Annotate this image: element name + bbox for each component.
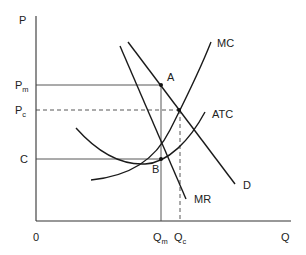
atc-label: ATC	[212, 108, 233, 120]
marginal-revenue-curve	[120, 46, 186, 199]
mc-label: MC	[217, 37, 234, 49]
average-total-cost-curve	[76, 112, 205, 164]
qc-label: Qc	[174, 231, 187, 246]
point-a-marker	[159, 83, 163, 87]
pc-label: Pc	[15, 104, 26, 119]
point-b-marker	[159, 157, 163, 161]
x-axis-label: Q	[281, 231, 290, 243]
qm-label: Qm	[153, 231, 168, 246]
d-label: D	[243, 179, 251, 191]
mr-label: MR	[194, 193, 211, 205]
pm-label: Pm	[15, 79, 29, 94]
curves	[76, 42, 235, 199]
price-labels: Pm Pc C	[15, 79, 29, 165]
guide-lines	[36, 85, 180, 221]
point-b-label: B	[152, 163, 159, 175]
y-axis-label: P	[19, 14, 26, 26]
origin-label: 0	[33, 231, 39, 243]
monopoly-diagram: P Q 0 Pm Pc C Qm Qc	[0, 0, 306, 255]
competitive-equilibrium-marker	[177, 108, 181, 112]
quantity-labels: Qm Qc	[153, 231, 187, 246]
point-a-label: A	[167, 71, 175, 83]
c-label: C	[20, 153, 28, 165]
